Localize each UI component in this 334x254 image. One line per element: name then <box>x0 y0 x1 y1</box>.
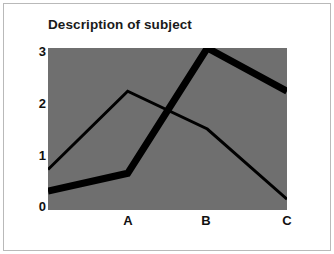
plot-area <box>48 48 287 210</box>
y-axis-tick-label-1: 1 <box>24 149 46 162</box>
x-axis-tick-label-b: B <box>191 214 221 227</box>
data-series-thick-line <box>48 48 287 191</box>
plot-svg <box>48 48 287 210</box>
y-axis-tick-label-0: 0 <box>24 200 46 213</box>
chart-figure: Description of subject 3 2 1 0 A B C <box>0 0 334 254</box>
x-axis-tick-label-c: C <box>272 214 302 227</box>
x-axis-tick-label-a: A <box>113 214 143 227</box>
y-axis-tick-label-2: 2 <box>24 97 46 110</box>
y-axis-tick-label-3: 3 <box>24 45 46 58</box>
chart-title: Description of subject <box>48 17 192 32</box>
